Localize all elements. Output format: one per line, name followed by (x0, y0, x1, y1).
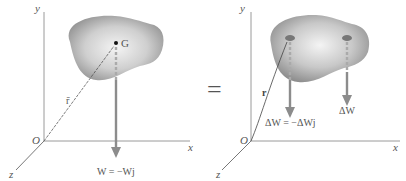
weight-label: W = −Wj (97, 166, 135, 177)
z-axis-label: z (215, 168, 221, 180)
diagram-canvas: y x z O G r̄ W = −Wj = y x z (0, 0, 406, 181)
y-axis-label: y (239, 2, 245, 14)
element-weight-label: ΔW = −ΔWj (265, 117, 316, 128)
weight-arrow-head (111, 147, 121, 158)
origin-label: O (240, 134, 248, 146)
center-of-gravity-point (114, 41, 118, 45)
x-axis-label: x (392, 141, 398, 153)
mass-element-1 (285, 35, 295, 41)
y-axis-label: y (34, 2, 40, 14)
right-panel: y x z O r ΔW = −ΔWj ΔW (215, 2, 400, 180)
origin-label: O (32, 134, 40, 146)
position-vector-label: r (262, 87, 267, 98)
element-weight-label-2: ΔW (339, 105, 355, 116)
x-axis-label: x (187, 141, 193, 153)
rigid-body-shape (270, 15, 369, 82)
position-vector-label: r̄ (66, 95, 70, 106)
z-axis-label: z (8, 168, 14, 180)
equals-sign: = (207, 75, 222, 104)
left-panel: y x z O G r̄ W = −Wj (8, 2, 193, 180)
mass-element-2 (342, 35, 352, 41)
center-of-gravity-label: G (121, 37, 129, 49)
